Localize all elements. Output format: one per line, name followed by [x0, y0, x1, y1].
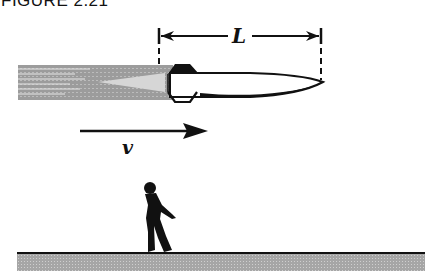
- length-label: L: [231, 24, 246, 48]
- velocity-arrow: [80, 123, 208, 139]
- ground: [17, 253, 425, 271]
- diagram-canvas: L v: [0, 0, 425, 277]
- rocket: [168, 64, 323, 102]
- observer-silhouette: [144, 182, 176, 252]
- velocity-label: v: [122, 136, 134, 158]
- exhaust-plume: [18, 65, 173, 100]
